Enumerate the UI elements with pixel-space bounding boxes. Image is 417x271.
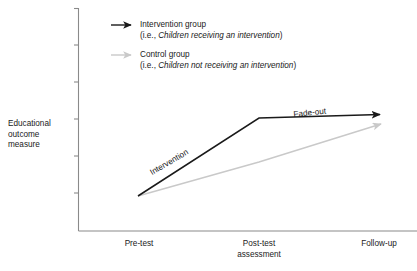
x-tick-label-follow-up: Follow-up <box>348 239 410 250</box>
legend-sub-italic: Children receiving an intervention <box>158 31 280 40</box>
chart-figure: Educationaloutcomemeasure Intervention g… <box>0 0 417 271</box>
legend-sub-italic: Children not receiving an intervention <box>158 61 293 70</box>
legend-sublabel-intervention-group: (i.e., Children receiving an interventio… <box>140 31 282 42</box>
legend-sub-prefix: (i.e., <box>140 61 158 70</box>
y-axis-title-line1: Educational <box>8 119 51 128</box>
y-axis-title-line3: measure <box>8 140 40 149</box>
y-axis-title: Educationaloutcomemeasure <box>8 119 72 151</box>
legend-sub-prefix: (i.e., <box>140 31 158 40</box>
legend-sublabel-control-group: (i.e., Children not receiving an interve… <box>140 61 296 72</box>
x-tick-label-pre-test: Pre-test <box>113 239 165 250</box>
legend-sub-suffix: ) <box>293 61 296 70</box>
y-axis-ticks <box>74 9 79 194</box>
legend-label-control-group: Control group <box>140 50 190 61</box>
x-tick-label-post-test-line2: assessment <box>228 250 290 261</box>
x-tick-label-post-test: Post-test <box>228 239 290 250</box>
legend-sub-suffix: ) <box>280 31 283 40</box>
legend-label-intervention-group: Intervention group <box>140 20 206 31</box>
y-axis-title-line2: outcome <box>8 130 39 139</box>
